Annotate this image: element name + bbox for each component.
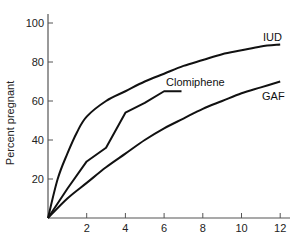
x-tick-label: 2: [84, 222, 90, 234]
series-lines: [48, 44, 280, 218]
series-line-iud: [48, 44, 280, 218]
y-ticks: 20406080100: [26, 17, 53, 185]
series-label-gaf: GAF: [262, 90, 285, 102]
x-tick-label: 4: [122, 222, 128, 234]
series-label-iud: IUD: [263, 31, 282, 43]
x-tick-label: 10: [235, 222, 247, 234]
y-tick-label: 80: [32, 56, 44, 68]
x-tick-label: 8: [200, 222, 206, 234]
series-label-clomiphene: Clomiphene: [166, 76, 225, 88]
x-tick-label: 12: [274, 222, 286, 234]
x-ticks: 24681012: [84, 213, 287, 234]
series-line-gaf: [48, 82, 280, 219]
y-tick-label: 100: [26, 17, 44, 29]
y-tick-label: 60: [32, 95, 44, 107]
y-tick-label: 20: [32, 173, 44, 185]
y-tick-label: 40: [32, 134, 44, 146]
axes: [48, 14, 290, 218]
line-chart: 20406080100 24681012 IUD Clomiphene GAF: [0, 0, 297, 237]
x-tick-label: 6: [161, 222, 167, 234]
